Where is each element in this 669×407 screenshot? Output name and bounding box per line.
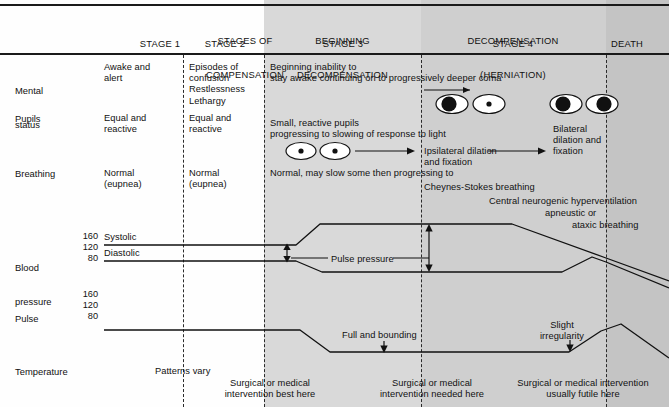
chart-vector-overlay — [0, 0, 669, 407]
pulse-pressure-arrow-narrow — [283, 244, 290, 263]
pupil-pair-bilateral-dilated — [550, 95, 618, 114]
pupil-pair-ipsilateral-dilated — [436, 95, 505, 114]
pupil-pair-small-reactive — [286, 143, 350, 160]
arrow-full-and-bounding — [380, 341, 387, 353]
pulse-pressure-arrow-wide — [425, 224, 432, 272]
arrow-to-bilateral — [488, 148, 546, 155]
pulse-curve — [104, 324, 669, 358]
arrow-to-ipsilateral — [355, 148, 415, 155]
coma-progression-arrow — [424, 87, 470, 93]
bp-diastolic-curve — [104, 257, 669, 288]
icp-stages-chart: STAGES OF COMPENSATION BEGINNING DECOMPE… — [0, 0, 669, 407]
